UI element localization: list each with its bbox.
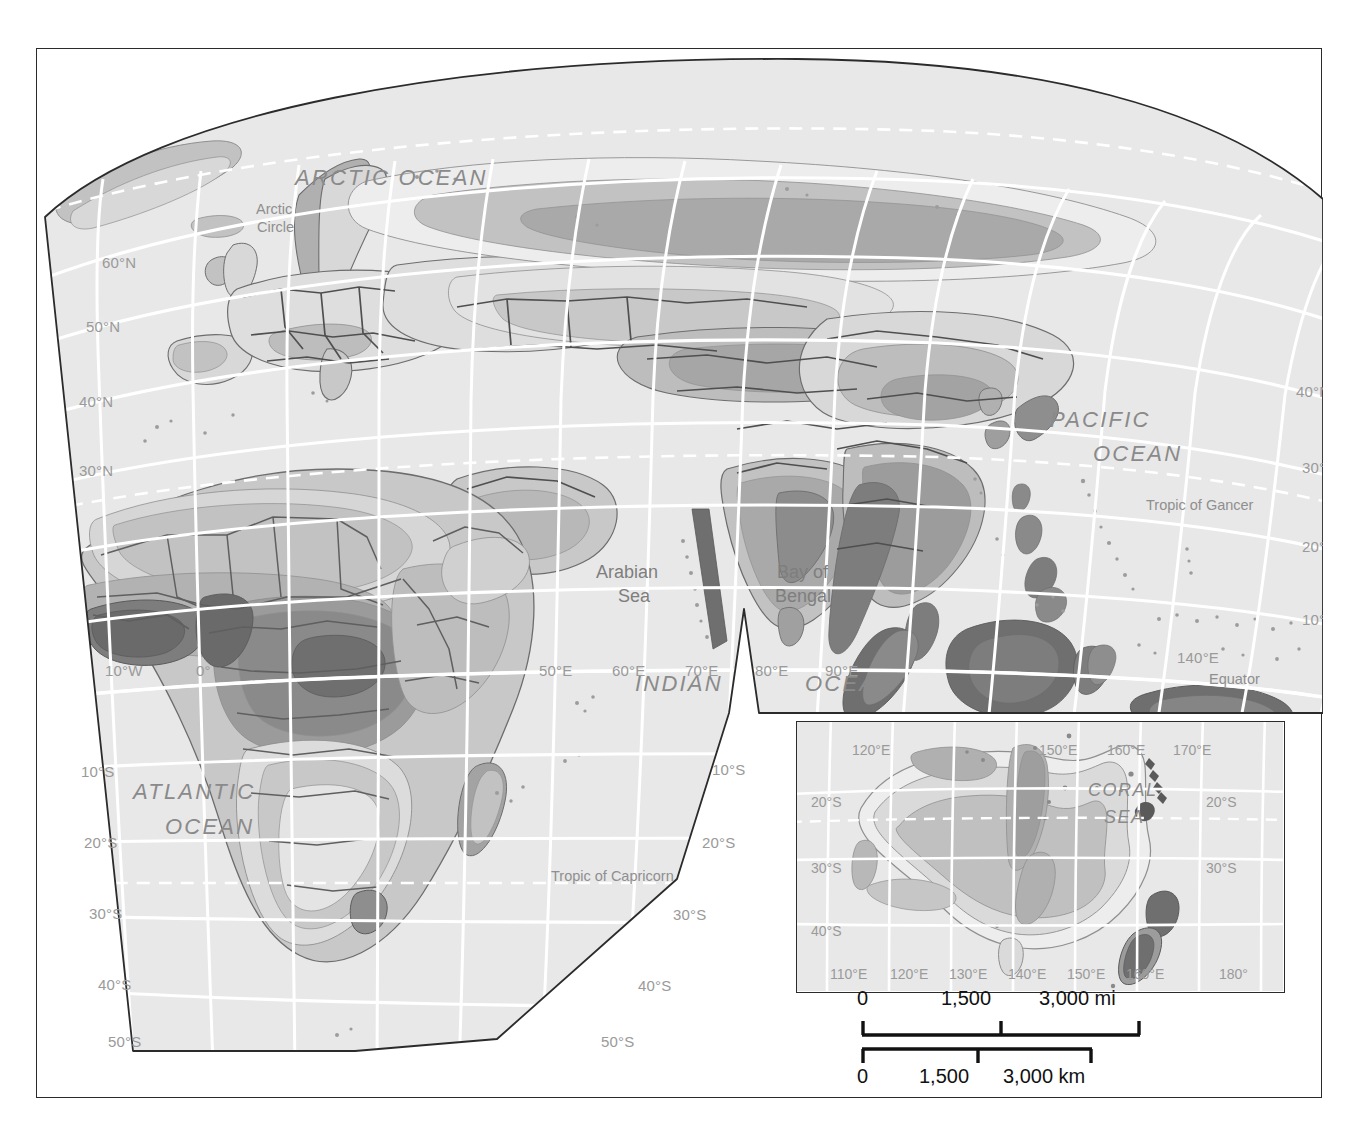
km-scale-bar [862, 1049, 1092, 1063]
scale-bars: 0 1,500 3,000 mi [857, 987, 1257, 1097]
scale-km-label-3000: 3,000 km [1003, 1065, 1085, 1088]
scale-km-label-0: 0 [857, 1065, 868, 1088]
inset-map-graphic [797, 722, 1283, 991]
scale-km-label-1500: 1,500 [919, 1065, 969, 1088]
miles-scale-bar [862, 1021, 1140, 1035]
map-page: ARCTIC OCEAN PACIFIC OCEAN ATLANTIC OCEA… [0, 0, 1358, 1136]
map-outer-frame: ARCTIC OCEAN PACIFIC OCEAN ATLANTIC OCEA… [36, 48, 1322, 1098]
australia-inset-map[interactable]: CORAL SEA 120°E 150°E 160°E 170°E 110°E … [796, 721, 1285, 993]
